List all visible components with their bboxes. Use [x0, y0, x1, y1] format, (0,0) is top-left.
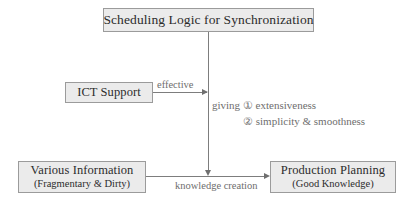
node-ict-support-label: ICT Support	[77, 85, 141, 100]
arrowhead-ict-to-spine-icon	[202, 89, 208, 95]
node-production-planning-label: Production Planning	[281, 163, 385, 178]
edge-label-effective: effective	[157, 78, 194, 92]
arrowhead-to-production-icon	[264, 173, 270, 179]
node-scheduling-logic[interactable]: Scheduling Logic for Synchronization	[103, 8, 314, 32]
node-various-information-label: Various Information	[31, 163, 134, 178]
connector-scheduling-to-bottom	[208, 32, 209, 174]
node-various-information[interactable]: Various Information (Fragmentary & Dirty…	[18, 161, 146, 193]
annotation-giving-line-1: giving ① extensiveness	[212, 98, 365, 114]
node-production-planning-sublabel: (Good Knowledge)	[292, 178, 373, 190]
node-ict-support[interactable]: ICT Support	[65, 82, 153, 103]
node-various-information-sublabel: (Fragmentary & Dirty)	[34, 178, 130, 190]
annotation-giving-line-2: ② simplicity & smoothness	[212, 114, 365, 130]
arrowhead-spine-down-icon	[205, 170, 211, 176]
node-production-planning[interactable]: Production Planning (Good Knowledge)	[270, 161, 396, 193]
connector-various-to-production	[146, 176, 268, 177]
diagram-canvas: Scheduling Logic for Synchronization ICT…	[0, 0, 412, 209]
node-scheduling-logic-label: Scheduling Logic for Synchronization	[103, 12, 313, 28]
annotation-giving: giving ① extensiveness ② simplicity & sm…	[212, 98, 365, 130]
edge-label-knowledge-creation: knowledge creation	[175, 179, 258, 193]
